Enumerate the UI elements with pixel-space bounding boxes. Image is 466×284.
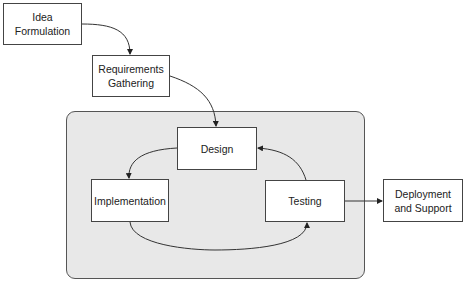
arrow-testing-to-design: [258, 148, 306, 180]
arrow-requirements-to-design: [170, 76, 216, 126]
arrow-implementation-to-testing: [130, 222, 307, 250]
arrow-idea-to-requirements: [82, 24, 130, 54]
connector-arrows: [0, 0, 466, 284]
arrow-design-to-implementation: [129, 148, 177, 178]
